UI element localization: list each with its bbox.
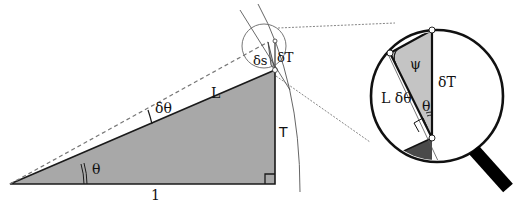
label-T: T <box>278 124 288 140</box>
main-triangle <box>10 70 275 184</box>
label-L-delta-theta: L δθ <box>381 90 412 106</box>
delta-theta-arc <box>148 110 152 124</box>
label-delta-s: δs <box>253 53 268 68</box>
top-point <box>273 39 277 43</box>
projection-line-bottom <box>276 76 370 142</box>
label-delta-T-inset: δT <box>438 74 456 90</box>
inset-point-bottom <box>429 135 435 141</box>
projection-line-top <box>278 23 395 28</box>
label-L: L <box>211 85 220 101</box>
magnifier-handle <box>474 150 508 188</box>
inset-point-top <box>429 27 435 33</box>
label-theta: θ <box>92 161 100 177</box>
inset-point-left <box>387 50 393 56</box>
geometry-diagram: θ δθ L 1 T δs δT ψ δT L δθ θ <box>0 0 523 204</box>
label-psi: ψ <box>410 56 421 72</box>
label-theta-inset: θ <box>422 98 430 114</box>
label-base-1: 1 <box>151 187 160 203</box>
label-delta-theta: δθ <box>155 100 172 116</box>
label-delta-T-small: δT <box>277 50 294 65</box>
